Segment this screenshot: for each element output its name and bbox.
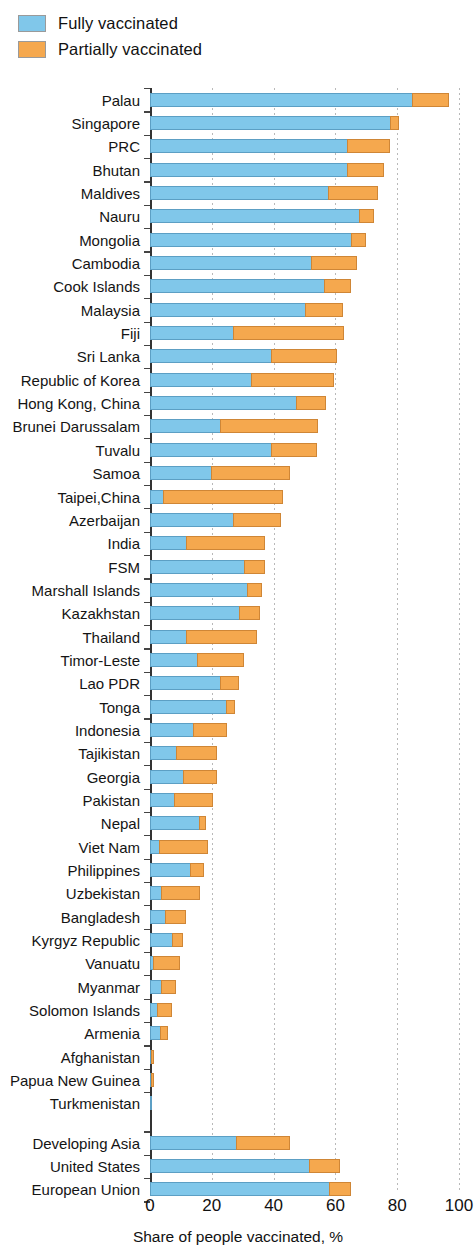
table-row <box>150 391 476 414</box>
y-axis-tick <box>144 392 150 393</box>
table-row <box>150 345 476 368</box>
bar-segment-fully-vaccinated <box>150 793 175 807</box>
bar-segment-fully-vaccinated <box>150 630 187 644</box>
bar-segment-fully-vaccinated <box>150 233 352 247</box>
bar-segment-partially-vaccinated <box>271 443 317 457</box>
table-row <box>150 485 476 508</box>
bar-segment-partially-vaccinated <box>311 256 356 270</box>
bar-segment-partially-vaccinated <box>296 396 326 410</box>
bar-segment-partially-vaccinated <box>190 863 204 877</box>
y-axis-tick <box>144 1131 150 1132</box>
bar-segment-partially-vaccinated <box>324 279 351 293</box>
table-row <box>150 135 476 158</box>
stacked-bar <box>150 746 217 760</box>
plot-area: PalauSingaporePRCBhutanMaldivesNauruMong… <box>0 88 476 1193</box>
y-axis-tick <box>144 485 150 486</box>
bar-segment-fully-vaccinated <box>150 863 191 877</box>
y-axis-tick <box>144 1022 150 1023</box>
bar-segment-partially-vaccinated <box>351 233 365 247</box>
bar-segment-partially-vaccinated <box>390 116 399 130</box>
bar-segment-fully-vaccinated <box>150 536 187 550</box>
stacked-bar <box>150 630 257 644</box>
vaccination-bar-chart-figure: Fully vaccinated Partially vaccinated Pa… <box>0 0 476 1253</box>
category-label: FSM <box>108 559 140 574</box>
bar-segment-partially-vaccinated <box>226 700 235 714</box>
bar-segment-fully-vaccinated <box>150 163 348 177</box>
category-label-row: Pakistan <box>0 788 146 811</box>
y-axis-tick <box>144 205 150 206</box>
legend-swatch-fully-vaccinated <box>18 15 46 32</box>
table-row <box>150 228 476 251</box>
y-axis-tick <box>144 835 150 836</box>
chart-legend: Fully vaccinated Partially vaccinated <box>18 10 318 62</box>
category-label: European Union <box>32 1182 140 1197</box>
bar-segment-fully-vaccinated <box>150 746 177 760</box>
category-label: Singapore <box>72 116 140 131</box>
stacked-bar <box>150 606 260 620</box>
bar-segment-fully-vaccinated <box>150 1159 310 1173</box>
bar-segment-partially-vaccinated <box>271 349 336 363</box>
x-axis-tick-label: 100 <box>445 1196 473 1216</box>
category-label: Fiji <box>121 326 140 341</box>
y-axis-tick <box>144 812 150 813</box>
stacked-bar <box>150 1003 172 1017</box>
bar-segment-fully-vaccinated <box>150 93 413 107</box>
bar-segment-partially-vaccinated <box>174 793 213 807</box>
category-label-row: Viet Nam <box>0 835 146 858</box>
category-label-row: Vanuatu <box>0 952 146 975</box>
table-row <box>150 251 476 274</box>
stacked-bar <box>150 349 337 363</box>
category-label: Timor-Leste <box>61 652 140 667</box>
stacked-bar <box>150 560 265 574</box>
bar-segment-fully-vaccinated <box>150 209 360 223</box>
category-label-row: Bangladesh <box>0 905 146 928</box>
table-row <box>150 695 476 718</box>
category-label: Armenia <box>84 1026 140 1041</box>
y-axis-tick <box>144 415 150 416</box>
category-label: Thailand <box>82 629 140 644</box>
category-label-row: Hong Kong, China <box>0 391 146 414</box>
bar-segment-fully-vaccinated <box>150 1182 330 1196</box>
y-axis-tick <box>144 742 150 743</box>
bar-segment-fully-vaccinated <box>150 303 306 317</box>
y-axis-tick <box>144 298 150 299</box>
category-label-row: United States <box>0 1154 146 1177</box>
category-label-row: Republic of Korea <box>0 368 146 391</box>
category-label: Georgia <box>87 769 140 784</box>
stacked-bar <box>150 583 262 597</box>
category-label: Azerbaijan <box>69 512 140 527</box>
category-label-row: Tonga <box>0 695 146 718</box>
bar-segment-fully-vaccinated <box>150 186 329 200</box>
stacked-bar <box>150 163 384 177</box>
category-label-row: Sri Lanka <box>0 345 146 368</box>
x-axis-tick-label: 40 <box>264 1196 283 1216</box>
bar-segment-fully-vaccinated <box>150 349 272 363</box>
group-spacer <box>0 1115 146 1131</box>
stacked-bar <box>150 840 208 854</box>
table-row <box>150 508 476 531</box>
legend-label-fully-vaccinated: Fully vaccinated <box>58 14 178 33</box>
bar-segment-fully-vaccinated <box>150 373 252 387</box>
bar-segment-partially-vaccinated <box>160 1026 168 1040</box>
y-axis-tick <box>144 532 150 533</box>
category-label-row: Georgia <box>0 765 146 788</box>
table-row <box>150 928 476 951</box>
category-label-row: Philippines <box>0 858 146 881</box>
bar-segment-fully-vaccinated <box>150 116 391 130</box>
bar-segment-fully-vaccinated <box>150 910 166 924</box>
stacked-bar <box>150 419 318 433</box>
table-row <box>150 812 476 835</box>
bar-segment-partially-vaccinated <box>220 676 239 690</box>
category-label-row: Mongolia <box>0 228 146 251</box>
stacked-bar <box>150 700 235 714</box>
bar-segment-partially-vaccinated <box>199 816 205 830</box>
stacked-bar <box>150 956 180 970</box>
category-label-row: Taipei,China <box>0 485 146 508</box>
category-label-row: Timor-Leste <box>0 648 146 671</box>
category-label-row: Turkmenistan <box>0 1092 146 1115</box>
y-axis-tick <box>144 625 150 626</box>
category-label-row: Kyrgyz Republic <box>0 928 146 951</box>
bar-segment-partially-vaccinated <box>251 373 334 387</box>
category-label: Indonesia <box>75 722 140 737</box>
table-row <box>150 1068 476 1091</box>
